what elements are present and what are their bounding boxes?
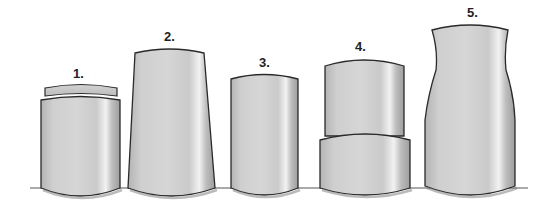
label-5: 5. (467, 5, 478, 20)
shape-2: 2. (128, 29, 217, 198)
label-4: 4. (355, 39, 366, 54)
shape-3: 3. (231, 55, 300, 197)
label-1: 1. (73, 66, 84, 81)
label-2: 2. (164, 29, 175, 44)
label-3: 3. (259, 55, 270, 70)
shapes-illustration: 1. 2. 3. 4. 5. (0, 0, 553, 212)
shape-4: 4. (320, 39, 412, 197)
shape-1: 1. (41, 66, 122, 198)
shape-5: 5. (425, 5, 517, 197)
